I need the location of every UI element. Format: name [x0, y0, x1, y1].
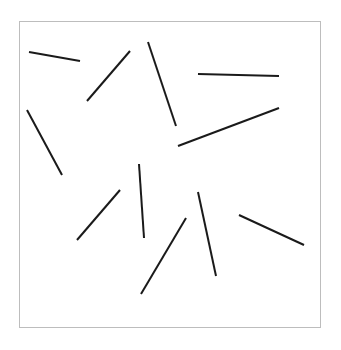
diagram-frame — [20, 22, 321, 328]
line-segments-diagram — [0, 0, 341, 350]
